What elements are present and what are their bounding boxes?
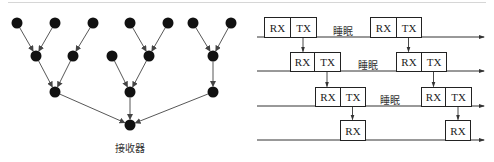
sleep-label: 睡眠: [380, 92, 400, 107]
rx-slot: RX: [340, 120, 366, 141]
rx-slot: RX: [445, 120, 471, 141]
rx-slot: RX: [264, 17, 291, 38]
tx-slot: TX: [340, 87, 366, 107]
tx-slot: TX: [421, 52, 447, 72]
rx-slot: RX: [370, 17, 397, 38]
tx-slot: TX: [290, 17, 317, 38]
rx-slot: RX: [290, 52, 315, 72]
tx-slot: TX: [314, 52, 341, 72]
tx-slot: TX: [445, 87, 472, 107]
sleep-label: 睡眠: [333, 23, 353, 38]
rx-slot: RX: [396, 52, 422, 72]
figure: 接收器 RXTXRXTX睡眠RXTXRXTX睡眠RXTXRXTX睡眠RXRX: [0, 0, 494, 162]
rx-slot: RX: [315, 87, 341, 107]
sleep-label: 睡眠: [358, 57, 378, 72]
tx-slot: TX: [396, 17, 422, 38]
rx-slot: RX: [421, 87, 446, 107]
